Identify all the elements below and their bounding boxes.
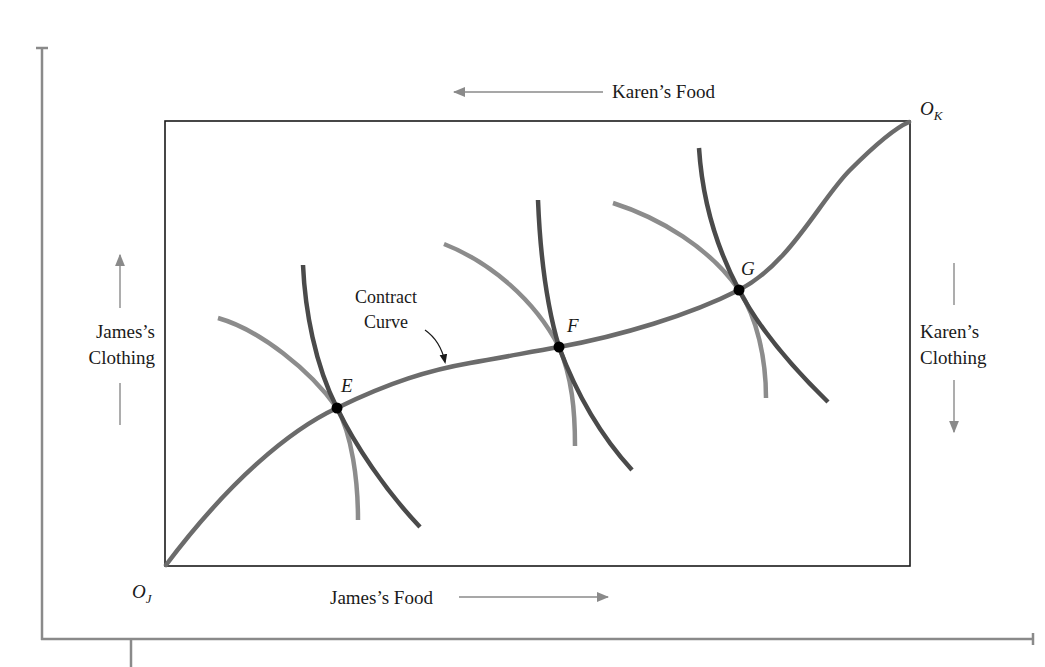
karen-clothing-label-line2: Clothing xyxy=(920,347,987,368)
origin-karen-subscript: K xyxy=(933,108,944,123)
point-f-marker xyxy=(554,342,565,353)
karen-clothing-label-line1: Karen’s xyxy=(920,321,979,342)
edgeworth-box-diagram: Karen’s Food James’s Food James’s Clothi… xyxy=(0,0,1045,667)
contract-curve-pointer-arrow xyxy=(425,330,445,362)
origin-james-subscript: J xyxy=(146,591,153,606)
karens-food-label: Karen’s Food xyxy=(612,81,715,102)
karen-indifference-curve-1 xyxy=(218,318,358,520)
karen-indifference-curves xyxy=(218,203,766,520)
origin-karen-main: O xyxy=(920,98,934,119)
contract-curve-label-line2: Curve xyxy=(364,312,408,332)
point-e-marker xyxy=(332,403,343,414)
james-food-label: James’s Food xyxy=(330,587,433,608)
point-e-label: E xyxy=(340,375,353,396)
contract-curve xyxy=(166,122,909,565)
origin-james-label: OJ xyxy=(132,581,153,606)
james-clothing-label-line1: James’s xyxy=(96,321,155,342)
edgeworth-box xyxy=(165,121,910,566)
contract-curve-label-line1: Contract xyxy=(355,287,417,307)
origin-james-main: O xyxy=(132,581,146,602)
james-indifference-curves xyxy=(303,148,828,527)
point-f-label: F xyxy=(566,315,579,336)
point-g-label: G xyxy=(741,258,755,279)
james-clothing-label-line2: Clothing xyxy=(88,347,155,368)
point-g-marker xyxy=(734,285,745,296)
origin-karen-label: OK xyxy=(920,98,944,123)
